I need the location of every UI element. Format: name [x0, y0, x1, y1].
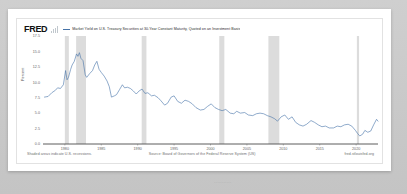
recession-bands: [65, 36, 359, 144]
bar-chart-icon: [51, 26, 60, 33]
legend-color-swatch: [63, 29, 70, 30]
svg-text:12.5: 12.5: [33, 65, 40, 69]
fred-url: fred.stlouisfed.org: [344, 152, 374, 156]
svg-text:2.5: 2.5: [35, 127, 40, 131]
svg-text:17.5: 17.5: [33, 34, 40, 38]
fred-logo: FRED: [23, 25, 48, 34]
y-axis-ticks: 0.02.55.07.510.012.515.017.5: [33, 34, 40, 146]
line-chart-svg: 0.02.55.07.510.012.515.017.5 19801985199…: [17, 34, 384, 160]
source-note: Source: Board of Governors of the Federa…: [149, 152, 256, 156]
svg-text:5.0: 5.0: [35, 111, 40, 115]
document-card: FRED Market Yield on U.S. Treasury Secur…: [8, 9, 391, 171]
svg-text:0.0: 0.0: [35, 142, 40, 146]
chart-footer: Shaded areas indicate U.S. recessions. S…: [27, 150, 374, 158]
series-line-30y-treasury: [44, 53, 378, 136]
svg-text:10.0: 10.0: [33, 81, 40, 85]
bottom-strip-text: ...........: [214, 176, 407, 186]
plot-area: 0.02.55.07.510.012.515.017.5 19801985199…: [17, 34, 384, 147]
page-bottom-text: ...........: [214, 176, 407, 186]
fred-chart: FRED Market Yield on U.S. Treasury Secur…: [16, 18, 383, 164]
svg-text:7.5: 7.5: [35, 96, 40, 100]
page-background: FRED Market Yield on U.S. Treasury Secur…: [0, 0, 407, 194]
chart-legend: Market Yield on U.S. Treasury Securities…: [63, 27, 240, 32]
recession-note: Shaded areas indicate U.S. recessions.: [27, 152, 92, 156]
svg-text:15.0: 15.0: [33, 50, 40, 54]
legend-label: Market Yield on U.S. Treasury Securities…: [72, 27, 240, 32]
